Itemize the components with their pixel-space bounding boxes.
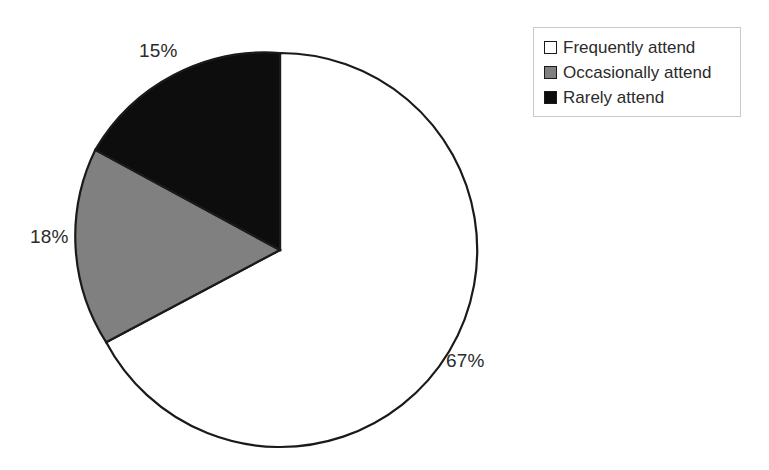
legend-swatch-black-icon xyxy=(544,91,557,104)
legend-swatch-white-icon xyxy=(544,41,557,54)
pie-label-occasionally-attend: 18% xyxy=(30,226,69,248)
pie-chart-figure: 15% 18% 67% Frequently attend Occasional… xyxy=(0,0,769,470)
chart-legend: Frequently attend Occasionally attend Ra… xyxy=(533,27,741,117)
legend-item-rarely-attend[interactable]: Rarely attend xyxy=(544,85,732,110)
legend-item-occasionally-attend[interactable]: Occasionally attend xyxy=(544,60,732,85)
legend-label-occasionally-attend: Occasionally attend xyxy=(563,64,711,82)
pie-label-frequently-attend: 67% xyxy=(446,350,485,372)
legend-item-frequently-attend[interactable]: Frequently attend xyxy=(544,35,732,60)
legend-label-frequently-attend: Frequently attend xyxy=(563,39,695,57)
legend-label-rarely-attend: Rarely attend xyxy=(563,89,664,107)
legend-swatch-gray-icon xyxy=(544,66,557,79)
pie-label-rarely-attend: 15% xyxy=(139,40,178,62)
